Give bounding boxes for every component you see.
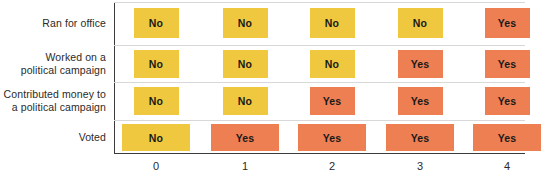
mosaic-cell: Yes [485, 8, 530, 38]
y-axis-line [114, 2, 115, 153]
row-label-contributed-money: Contributed money to a political campaig… [0, 88, 106, 113]
top-boundary-gridline [114, 2, 525, 3]
row-separator-gridline [114, 45, 525, 46]
x-tick-label: 4 [487, 160, 527, 172]
row-label-voted: Voted [0, 131, 106, 144]
row-label-column: Ran for office Worked on a political cam… [0, 0, 110, 153]
mosaic-cell: Yes [386, 124, 454, 151]
mosaic-cell: No [134, 8, 179, 38]
mosaic-cell: No [223, 8, 268, 38]
mosaic-cell: Yes [485, 50, 530, 78]
plot-area: NoNoNoNoYesNoNoNoYesYesNoNoYesYesYesNoYe… [114, 2, 525, 153]
row-label-ran-for-office: Ran for office [0, 17, 106, 30]
x-tick-label: 3 [400, 160, 440, 172]
mosaic-cell: No [122, 124, 190, 151]
x-tick-label: 2 [312, 160, 352, 172]
row-separator-gridline [114, 82, 525, 83]
mosaic-cell: Yes [298, 124, 366, 151]
mosaic-cell: Yes [398, 87, 443, 115]
mosaic-cell: No [398, 8, 443, 38]
mosaic-cell: Yes [473, 124, 541, 151]
mosaic-cell: No [310, 50, 355, 78]
mosaic-cell: Yes [398, 50, 443, 78]
mosaic-cell: Yes [485, 87, 530, 115]
row-separator-gridline [114, 120, 525, 121]
mosaic-cell: No [134, 87, 179, 115]
mosaic-chart-figure: Ran for office Worked on a political cam… [0, 0, 550, 184]
mosaic-cell: No [310, 8, 355, 38]
x-tick-label: 0 [136, 160, 176, 172]
row-label-worked-on-campaign: Worked on a political campaign [0, 51, 106, 76]
mosaic-cell: No [223, 87, 268, 115]
x-axis-line [114, 153, 525, 154]
x-tick-label: 1 [225, 160, 265, 172]
mosaic-cell: No [134, 50, 179, 78]
mosaic-cell: No [223, 50, 268, 78]
mosaic-cell: Yes [211, 124, 279, 151]
mosaic-cell: Yes [310, 87, 355, 115]
